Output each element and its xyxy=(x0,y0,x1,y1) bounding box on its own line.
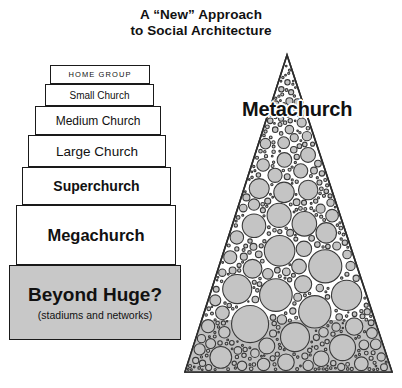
metachurch-label: Metachurch xyxy=(242,98,352,121)
pyramid-step-megachurch: Megachurch xyxy=(16,205,176,265)
pyramid-step-superchurch: Superchurch xyxy=(22,167,171,205)
pyramid-step-medium-church: Medium Church xyxy=(35,106,161,135)
pyramid-step-label: Medium Church xyxy=(56,114,141,128)
pyramid-step-label: Superchurch xyxy=(53,178,139,194)
pyramid-step-label: HOME GROUP xyxy=(68,70,131,79)
pyramid-step-label: Megachurch xyxy=(47,226,144,245)
pyramid-step-label: Beyond Huge? xyxy=(28,284,162,306)
pyramid-step-sublabel: (stadiums and networks) xyxy=(38,309,152,321)
pyramid-step-label: Small Church xyxy=(69,90,129,101)
pyramid-step-label: Large Church xyxy=(56,144,138,159)
pyramid-step-beyond-huge: Beyond Huge?(stadiums and networks) xyxy=(9,265,181,340)
diagram-canvas: A “New” Approach to Social Architecture … xyxy=(0,0,402,388)
title-line-2: to Social Architecture xyxy=(0,23,402,39)
pyramid-step-large-church: Large Church xyxy=(28,135,166,167)
pyramid-step-home-group: HOME GROUP xyxy=(50,65,150,84)
title-line-1: A “New” Approach xyxy=(0,7,402,23)
pyramid-step-small-church: Small Church xyxy=(45,84,154,106)
page-title: A “New” Approach to Social Architecture xyxy=(0,7,402,39)
